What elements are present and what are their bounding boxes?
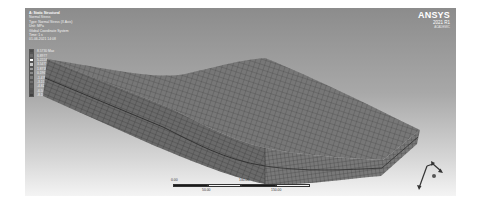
scale-bar: 0.00 100.00 50.00 150.00 bbox=[171, 178, 316, 196]
scale-segment-light bbox=[276, 184, 310, 187]
scale-label-50: 50.00 bbox=[202, 188, 211, 192]
scale-segment-dark bbox=[241, 184, 276, 187]
coordinate-triad-icon[interactable] bbox=[415, 158, 451, 194]
scale-label-0: 0.00 bbox=[171, 178, 178, 182]
mesh-model[interactable] bbox=[25, 8, 456, 196]
graphics-viewport[interactable]: A: Static Structural Normal Stress Type:… bbox=[25, 8, 456, 196]
scale-segment-dark bbox=[173, 184, 208, 187]
scale-segment-light bbox=[208, 184, 241, 187]
scale-label-150: 150.00 bbox=[271, 188, 281, 192]
scale-label-100: 100.00 bbox=[239, 178, 249, 182]
